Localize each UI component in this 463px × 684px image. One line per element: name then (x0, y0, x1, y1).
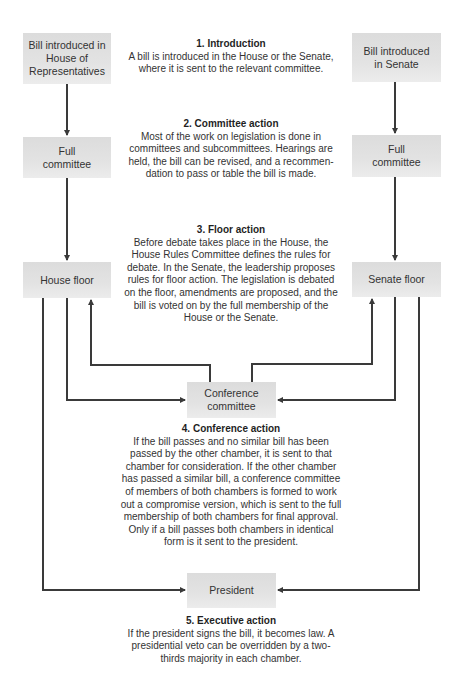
step-text: A bill is introduced in the House or the… (122, 51, 340, 76)
node-senate-full-committee: Full committee (352, 135, 441, 177)
node-conference-committee: Conference committee (187, 382, 276, 418)
step-executive-action: 5. Executive action If the president sig… (124, 615, 338, 665)
node-president: President (187, 573, 276, 608)
node-label: Full committee (42, 145, 92, 171)
node-senate-floor: Senate floor (352, 262, 441, 297)
step-text: Before debate takes place in the House, … (122, 237, 340, 325)
step-text: If the bill passes and no similar bill h… (120, 436, 342, 549)
node-label: House floor (40, 274, 94, 287)
step-title: 4. Conference action (120, 423, 342, 436)
step-text: If the president signs the bill, it beco… (124, 628, 338, 666)
node-bill-introduced-senate: Bill introduced in Senate (352, 33, 441, 82)
step-title: 1. Introduction (122, 38, 340, 51)
node-label: President (209, 584, 253, 597)
step-floor-action: 3. Floor action Before debate takes plac… (122, 224, 340, 325)
step-conference-action: 4. Conference action If the bill passes … (120, 423, 342, 549)
step-title: 5. Executive action (124, 615, 338, 628)
node-label: Senate floor (368, 273, 425, 286)
step-title: 2. Committee action (124, 118, 338, 131)
step-introduction: 1. Introduction A bill is introduced in … (122, 38, 340, 76)
step-text: Most of the work on legislation is done … (124, 131, 338, 181)
step-title: 3. Floor action (122, 224, 340, 237)
node-house-floor: House floor (23, 262, 111, 298)
node-house-full-committee: Full committee (23, 137, 111, 178)
node-label: Conference committee (202, 387, 262, 413)
node-label: Bill introduced in House of Representati… (27, 39, 107, 78)
step-committee-action: 2. Committee action Most of the work on … (124, 118, 338, 181)
node-bill-introduced-house: Bill introduced in House of Representati… (23, 33, 111, 84)
node-label: Full committee (372, 143, 422, 169)
node-label: Bill introduced in Senate (364, 45, 430, 71)
